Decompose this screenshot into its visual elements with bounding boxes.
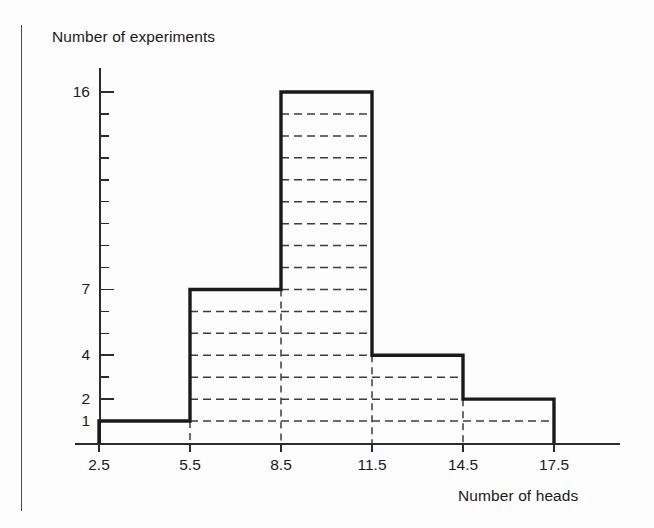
histogram-plot bbox=[0, 0, 654, 528]
histogram-figure: Number of experiments Number of heads 16… bbox=[0, 0, 654, 528]
bin-boundary-gridlines bbox=[190, 289, 463, 443]
